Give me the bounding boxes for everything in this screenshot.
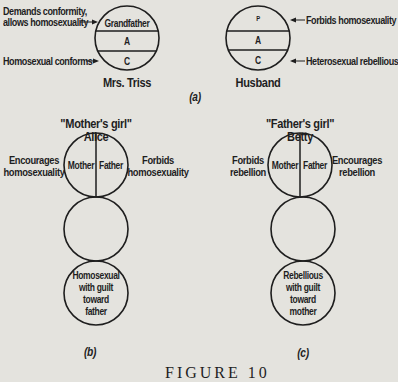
alice-left-note-2: homosexuality	[3, 166, 64, 178]
husband-label: Husband	[236, 77, 281, 89]
betty-outcome-4: mother	[290, 306, 317, 318]
betty-left-note-1: Forbids	[232, 154, 264, 166]
alice-outcome-4: father	[85, 306, 107, 318]
figure-caption: FIGURE 10	[165, 364, 270, 382]
betty-name: Betty	[287, 131, 313, 143]
arrow-icon	[290, 59, 305, 64]
panel-a-label: (a)	[189, 91, 200, 103]
panel-c-label: (c)	[297, 347, 308, 359]
betty-outcome-3: toward	[290, 294, 316, 306]
husband-annotation-top: Forbids homosexuality	[306, 14, 396, 26]
alice-outcome-3: toward	[83, 294, 109, 306]
betty-mother-label: Mother	[272, 160, 298, 172]
betty-right-note-2: rebellion	[339, 166, 375, 178]
alice-name: Alice	[84, 131, 109, 143]
betty-left-note-2: rebellion	[230, 166, 266, 178]
alice-outcome-2: with guilt	[79, 282, 113, 294]
husband-section-c: C	[255, 55, 261, 67]
triss-section-c: C	[124, 56, 130, 68]
husband-section-a: A	[255, 35, 261, 47]
alice-right-note-1: Forbids	[142, 154, 174, 166]
alice-right-note-2: homosexuality	[127, 166, 188, 178]
betty-outcome-2: with guilt	[286, 282, 320, 294]
triss-section-a: A	[124, 36, 130, 48]
alice-father-label: Father	[99, 160, 123, 172]
alice-outcome-1: Homosexual	[72, 270, 119, 282]
alice-mother-label: Mother	[68, 160, 94, 172]
triss-annotation-bottom: Homosexual conforms	[3, 55, 92, 67]
triss-annotation-top-2: allows homosexuality	[3, 16, 88, 28]
arrow-icon	[290, 18, 305, 23]
panel-b-label: (b)	[84, 346, 96, 358]
alice-left-note-1: Encourages	[9, 154, 59, 166]
husband-section-p: P	[256, 13, 260, 25]
husband-annotation-bottom: Heterosexual rebellious	[306, 55, 398, 67]
mrs-triss-label: Mrs. Triss	[103, 77, 151, 89]
betty-father-label: Father	[303, 160, 327, 172]
betty-right-note-1: Encourages	[332, 154, 382, 166]
betty-outcome-1: Rebellious	[283, 270, 323, 282]
triss-section-grandfather: Grandfather	[105, 18, 150, 30]
